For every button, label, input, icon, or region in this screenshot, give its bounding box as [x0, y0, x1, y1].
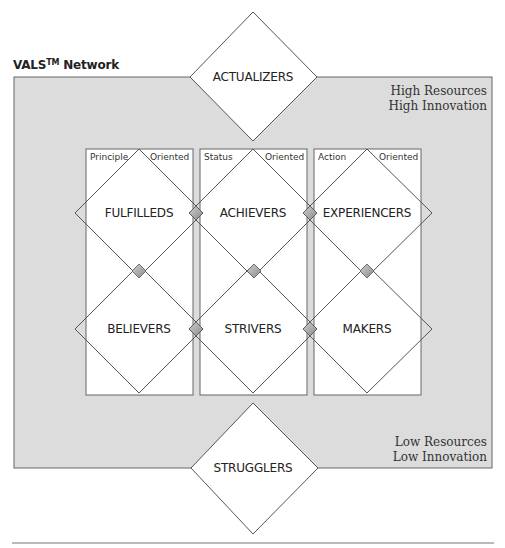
column-header-right: Oriented [150, 152, 189, 162]
corner-line: High Innovation [389, 99, 488, 114]
label-fulfilleds: FULFILLEDS [79, 206, 199, 220]
high-resources-label: High Resources High Innovation [389, 84, 488, 114]
column-header-left: Status [204, 152, 233, 162]
label-achievers: ACHIEVERS [193, 206, 313, 220]
column-header-left: Action [318, 152, 346, 162]
low-resources-label: Low Resources Low Innovation [393, 435, 487, 465]
column-header-right: Oriented [379, 152, 418, 162]
column-header-left: Principle [90, 152, 128, 162]
label-actualizers: ACTUALIZERS [193, 70, 313, 84]
label-strivers: STRIVERS [193, 322, 313, 336]
corner-line: High Resources [389, 84, 488, 99]
label-believers: BELIEVERS [79, 322, 199, 336]
column-header-right: Oriented [265, 152, 304, 162]
label-strugglers: STRUGGLERS [193, 461, 313, 475]
label-makers: MAKERS [307, 322, 427, 336]
corner-line: Low Resources [393, 435, 487, 450]
corner-line: Low Innovation [393, 450, 487, 465]
label-experiencers: EXPERIENCERS [307, 206, 427, 220]
